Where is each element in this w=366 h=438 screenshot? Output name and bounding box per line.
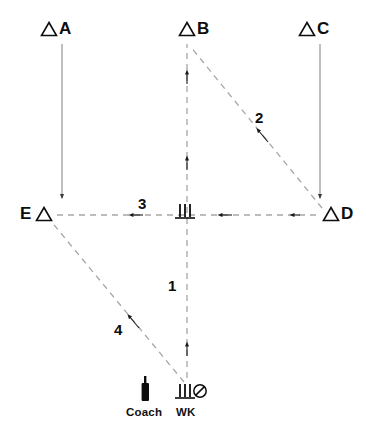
path-label-4: 4 [114,322,122,337]
cone-marker-b-label: B [197,20,210,37]
path-label-3: 3 [138,196,146,211]
cone-marker-d-label: D [341,205,354,222]
cone-marker-a-label: A [59,20,72,37]
wk-label: WK [176,407,196,419]
triangle-cone-icon [40,22,56,36]
triangle-cone-icon [322,207,338,221]
cone-marker-d[interactable]: D [322,205,354,222]
path-4-wk-to-e [50,220,184,382]
cone-marker-b[interactable]: B [178,20,210,37]
diagram-canvas: A B C D E [0,0,366,438]
path-label-2: 2 [255,110,263,125]
path-2-d-to-b [190,46,322,208]
cone-marker-c-label: C [317,20,330,37]
triangle-cone-icon [178,22,194,36]
cone-marker-a[interactable]: A [40,20,72,37]
cone-marker-e[interactable]: E [20,205,51,222]
triangle-cone-icon [35,207,51,221]
cone-marker-e-label: E [20,205,32,222]
coach-label: Coach [126,407,162,419]
path-label-1: 1 [168,278,176,293]
triangle-cone-icon [298,22,314,36]
cone-marker-c[interactable]: C [298,20,330,37]
center-stumps-icon [173,202,199,222]
ball-slash-icon [192,383,208,399]
cricket-bat-icon [138,376,152,404]
